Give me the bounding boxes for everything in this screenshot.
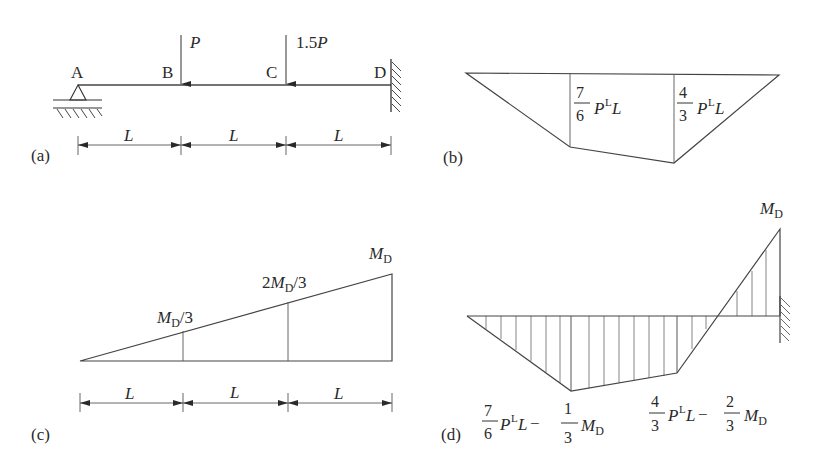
svg-text:L: L (685, 406, 695, 425)
moment-value-d-at-b: 7 6 P L L − 1 3 MD (482, 400, 604, 446)
moment-outline-d (467, 229, 780, 391)
svg-text:4: 4 (651, 393, 659, 410)
moment-polygon-b (466, 73, 779, 163)
svg-text:2: 2 (726, 393, 734, 410)
svg-text:3: 3 (726, 417, 734, 434)
moment-value-d-at-d: MD (759, 199, 783, 221)
svg-text:6: 6 (484, 425, 492, 442)
panel-label-c: (c) (31, 425, 50, 444)
svg-text:P: P (667, 406, 678, 425)
load-label-1-5p: 1.5P (296, 33, 328, 52)
span-label: L (228, 126, 238, 145)
span-label: L (123, 126, 133, 145)
fixed-support-icon (391, 59, 401, 112)
svg-text:L: L (511, 412, 518, 424)
span-label: L (124, 384, 134, 403)
load-label-p: P (189, 33, 200, 52)
svg-text:3: 3 (679, 107, 687, 124)
svg-text:6: 6 (576, 107, 584, 124)
moment-value-c-at-c: 2MD/3 (262, 273, 307, 295)
panel-d-combined-moment-diagram: MD 7 6 P L L − 1 3 MD 4 3 P L L − 2 3 M (441, 199, 790, 446)
span-label: L (333, 384, 343, 403)
moment-value-b-at-c: 4 3 P L L (677, 84, 724, 124)
svg-text:L: L (605, 96, 612, 108)
svg-text:P: P (593, 99, 604, 118)
moment-triangle-c (80, 274, 392, 361)
panel-b-moment-diagram: 7 6 P L L 4 3 P L L (b) (443, 73, 779, 167)
svg-text:3: 3 (564, 429, 572, 446)
svg-text:L: L (679, 403, 686, 415)
svg-text:−: − (698, 405, 708, 424)
svg-text:L: L (611, 99, 621, 118)
svg-text:L: L (708, 96, 715, 108)
panel-label-b: (b) (443, 148, 463, 167)
panel-a-beam-loading: P 1.5P A B C D L L L (a) (31, 33, 401, 165)
node-label-d: D (374, 63, 386, 82)
svg-text:L: L (517, 415, 527, 434)
span-label: L (229, 383, 239, 402)
svg-text:P: P (696, 99, 707, 118)
diagram-hatching (486, 250, 766, 391)
moment-value-d-at-c: 4 3 P L L − 2 3 MD (649, 393, 767, 434)
figure-canvas: P 1.5P A B C D L L L (a) 7 6 P (0, 0, 822, 466)
panel-label-d: (d) (441, 425, 461, 444)
pinned-support-icon (53, 85, 102, 118)
moment-value-b-at-b: 7 6 P L L (574, 84, 621, 124)
node-label-b: B (162, 63, 173, 82)
moment-value-c-at-b: MD/3 (156, 308, 193, 330)
svg-text:7: 7 (576, 84, 584, 101)
svg-text:−: − (530, 414, 540, 433)
moment-value-c-at-d: MD (368, 244, 392, 266)
svg-text:7: 7 (484, 402, 492, 419)
svg-text:MD: MD (743, 406, 767, 428)
span-label: L (333, 126, 343, 145)
svg-text:4: 4 (679, 84, 687, 101)
node-label-a: A (71, 63, 84, 82)
svg-text:3: 3 (651, 417, 659, 434)
panel-label-a: (a) (31, 146, 50, 165)
panel-c-moment-diagram: MD/3 2MD/3 MD L L L (c) (31, 244, 392, 444)
svg-text:P: P (499, 415, 510, 434)
fixed-support-icon (780, 296, 790, 343)
node-label-c: C (266, 63, 277, 82)
svg-text:L: L (714, 99, 724, 118)
svg-text:MD: MD (580, 416, 604, 438)
svg-text:1: 1 (564, 400, 572, 417)
